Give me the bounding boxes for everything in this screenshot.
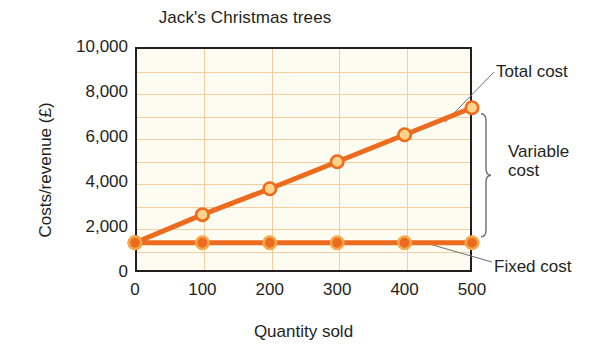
x-tick-label: 200 — [235, 280, 305, 300]
gridline-horizontal — [137, 117, 470, 118]
gridline-horizontal — [137, 72, 470, 73]
x-tick-label: 300 — [302, 280, 372, 300]
gridline-horizontal — [137, 94, 470, 95]
x-tick-label: 400 — [370, 280, 440, 300]
x-tick-label: 500 — [437, 280, 507, 300]
x-axis-tick-labels: 0100200300400500 — [135, 280, 472, 306]
variable-cost-brace — [481, 114, 491, 237]
x-tick-label: 100 — [167, 280, 237, 300]
y-tick-label: 10,000 — [44, 37, 128, 57]
gridline-vertical — [272, 49, 273, 270]
y-tick-label: 2,000 — [44, 217, 128, 237]
x-tick-label: 0 — [100, 280, 170, 300]
y-axis-tick-labels: 02,0004,0006,0008,00010,000 — [40, 47, 128, 272]
gridline-horizontal — [137, 162, 470, 163]
y-tick-label: 6,000 — [44, 127, 128, 147]
plot-gridlines — [137, 49, 470, 270]
annotation-total-cost: Total cost — [496, 62, 568, 81]
annotation-fixed-cost: Fixed cost — [494, 257, 571, 276]
y-tick-label: 8,000 — [44, 82, 128, 102]
gridline-vertical — [407, 49, 408, 270]
chart-figure: Jack's Christmas trees Costs/revenue (£)… — [0, 0, 602, 359]
gridline-horizontal — [137, 229, 470, 230]
y-tick-label: 4,000 — [44, 172, 128, 192]
x-axis-title: Quantity sold — [135, 322, 472, 342]
gridline-vertical — [204, 49, 205, 270]
gridline-horizontal — [137, 252, 470, 253]
annotation-variable-cost: Variable cost — [508, 142, 592, 180]
gridline-horizontal — [137, 139, 470, 140]
gridline-horizontal — [137, 207, 470, 208]
y-tick-label: 0 — [44, 262, 128, 282]
chart-title: Jack's Christmas trees — [0, 8, 490, 28]
plot-area — [135, 47, 472, 272]
gridline-vertical — [339, 49, 340, 270]
brace-path — [481, 114, 491, 237]
gridline-horizontal — [137, 184, 470, 185]
